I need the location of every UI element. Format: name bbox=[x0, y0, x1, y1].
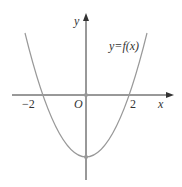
y-axis-arrow-icon bbox=[83, 13, 89, 21]
graph: y x O −2 2 y=f(x) bbox=[0, 0, 182, 187]
y-axis-label: y bbox=[73, 14, 80, 28]
x-axis-arrow-icon bbox=[166, 92, 174, 98]
vertex-point bbox=[84, 155, 88, 159]
origin-point bbox=[84, 93, 88, 97]
tick-label-neg-2: −2 bbox=[22, 97, 35, 111]
x-axis-label: x bbox=[157, 97, 164, 111]
tick-label-2: 2 bbox=[130, 97, 136, 111]
origin-label: O bbox=[74, 97, 83, 111]
function-label: y=f(x) bbox=[108, 39, 139, 53]
